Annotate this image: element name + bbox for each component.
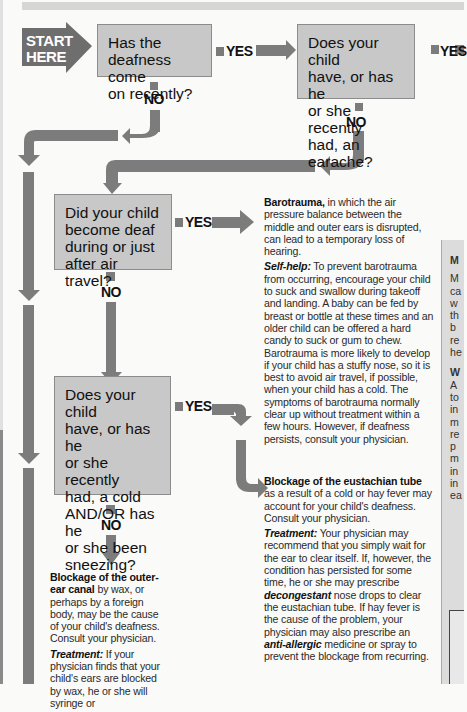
no-text: NO [346,114,366,130]
eustachian-title: Blockage of the eustachian tube [264,475,422,487]
question-line: deafness come [108,51,201,85]
side-panel-line: in [442,403,464,415]
side-panel-line: he [442,346,464,358]
barotrauma-title: Barotrauma, [264,196,325,208]
label-marker-icon [175,218,183,227]
question-line: had, a cold [65,488,160,505]
question-line: have, or has he [308,68,404,102]
question-line: Has the [108,34,201,51]
no-label-q3: NO [101,284,121,300]
no-label-q1: NO [144,91,164,107]
side-panel-line: M [442,272,464,284]
question-box-recent-deafness[interactable]: Has the deafness come on recently? [97,24,212,77]
question-box-cold-sneezing[interactable]: Does your child have, or has he or she r… [54,376,171,495]
side-panel-line: ea [442,489,464,501]
treatment-emphasis: decongestant [264,589,331,601]
no-label-q2: NO [346,114,366,130]
yes-label-q1: YES [216,43,253,59]
label-marker-icon [175,402,183,411]
side-panel-line: w [442,297,464,309]
yes-text: YES [226,43,253,59]
question-line: Does your child [308,34,404,68]
eustachian-treatment-label: Treatment: [264,527,317,539]
side-panel-heading: W [442,366,464,378]
side-panel-line: A [442,379,464,391]
side-panel-line: p [442,440,464,452]
start-label-line1: START [26,33,73,49]
question-box-air-travel[interactable]: Did your child become deaf during or jus… [54,194,172,270]
illustration-frame [449,610,464,684]
barotrauma-section: Barotrauma, in which the air pressure ba… [264,196,434,448]
side-panel-line: re [442,428,464,440]
question-line: become deaf [65,221,161,238]
side-panel-line: b [442,321,464,333]
outer-ear-treatment-label: Treatment: [50,648,103,660]
label-marker-icon [216,47,224,56]
side-panel-line: in [442,465,464,477]
start-here-marker: START HERE [26,33,73,65]
eustachian-section: Blockage of the eustachian tube as a res… [264,475,434,665]
yes-label-q3: YES [175,214,212,230]
side-panel-line: in [442,477,464,489]
yes-text: YES [440,43,467,59]
side-panel-line: m [442,416,464,428]
side-panel-line: th [442,309,464,321]
question-line: had, an earache? [308,136,404,170]
yes-text: YES [185,398,212,414]
no-text: NO [101,517,121,533]
outer-ear-section: Blockage of the outer-ear canal by wax, … [50,571,168,712]
yes-text: YES [185,214,212,230]
yes-label-q2: YES [440,43,467,59]
question-line: during or just [65,238,161,255]
selfhelp-label: Self-help: [264,260,311,272]
question-box-earache[interactable]: Does your child have, or has he or she r… [297,24,415,99]
start-label-line2: HERE [26,49,73,65]
eustachian-intro: as a result of a cold or hay fever may a… [264,487,432,524]
side-panel-line: m [442,452,464,464]
no-text: NO [101,284,121,300]
side-panel-heading: M [442,254,464,266]
treatment-emphasis: anti-allergic [264,638,322,650]
question-line: Does your child [65,386,160,420]
selfhelp-text: To prevent barotrauma from occurring, en… [264,260,433,444]
yes-label-q4: YES [175,398,212,414]
question-line: or she been [65,539,160,556]
question-line: Did your child [65,204,161,221]
no-label-q4: NO [101,517,121,533]
question-line: or she recently [65,454,160,488]
side-panel-line: to [442,391,464,403]
side-panel-line: re [442,334,464,346]
no-text: NO [144,91,164,107]
question-line: have, or has he [65,420,160,454]
side-panel-line: ca [442,285,464,297]
